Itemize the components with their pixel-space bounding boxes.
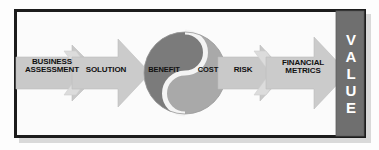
value-letter-l: L bbox=[346, 66, 355, 82]
step-label-financial-metrics: FINANCIAL METRICS bbox=[272, 59, 334, 76]
step-label-solution: SOLUTION bbox=[76, 66, 136, 74]
value-letter-u: U bbox=[346, 83, 357, 99]
step-label-benefit: BENEFIT bbox=[140, 66, 188, 74]
value-letter-v: V bbox=[346, 32, 356, 48]
diagram-stage: BUSINESS ASSESSMENT SOLUTION BENEFIT COS… bbox=[14, 9, 366, 138]
value-letter-a: A bbox=[346, 49, 357, 65]
value-bar-label: V A L U E bbox=[338, 13, 364, 134]
step-label-risk: RISK bbox=[222, 66, 264, 74]
value-letter-e: E bbox=[346, 100, 356, 116]
diagram-canvas: BUSINESS ASSESSMENT SOLUTION BENEFIT COS… bbox=[0, 0, 379, 150]
